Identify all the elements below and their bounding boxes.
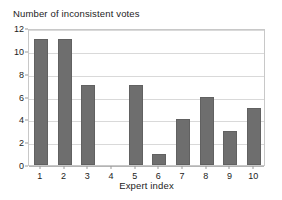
bar xyxy=(176,119,190,165)
x-tick-mark xyxy=(229,166,230,169)
x-tick-mark xyxy=(182,166,183,169)
bar xyxy=(58,39,72,165)
x-tick-mark xyxy=(205,166,206,169)
x-tick-mark xyxy=(63,166,64,169)
y-tick-label: 0 xyxy=(19,162,24,171)
bar-slot xyxy=(171,30,195,165)
x-axis-title: Expert index xyxy=(28,180,265,191)
bar-slot xyxy=(100,30,124,165)
x-tick-mark xyxy=(253,166,254,169)
bar xyxy=(200,97,214,166)
x-tick-mark xyxy=(158,166,159,169)
x-tick-mark xyxy=(110,166,111,169)
y-tick-label: 2 xyxy=(19,139,24,148)
bar xyxy=(34,39,48,165)
y-axis: 024681012 xyxy=(0,29,28,166)
y-tick-label: 12 xyxy=(14,25,24,34)
bar-slot xyxy=(242,30,266,165)
bar-slot xyxy=(195,30,219,165)
y-tick-label: 10 xyxy=(14,47,24,56)
bar xyxy=(152,154,166,165)
bar-slot xyxy=(148,30,172,165)
y-tick-label: 6 xyxy=(19,93,24,102)
bar xyxy=(129,85,143,165)
x-tick-mark xyxy=(134,166,135,169)
plot-area xyxy=(28,29,265,166)
chart-title: Number of inconsistent votes xyxy=(13,8,140,19)
bar xyxy=(247,108,261,165)
bar-slot xyxy=(53,30,77,165)
bar xyxy=(223,131,237,165)
bars-layer xyxy=(29,30,264,165)
bar-slot xyxy=(76,30,100,165)
bar xyxy=(81,85,95,165)
bar-slot xyxy=(219,30,243,165)
bar-slot xyxy=(29,30,53,165)
x-tick-mark xyxy=(39,166,40,169)
bar-chart: Number of inconsistent votes 024681012 1… xyxy=(0,0,282,200)
x-tick-mark xyxy=(87,166,88,169)
bar-slot xyxy=(124,30,148,165)
y-tick-label: 8 xyxy=(19,70,24,79)
y-tick-label: 4 xyxy=(19,116,24,125)
